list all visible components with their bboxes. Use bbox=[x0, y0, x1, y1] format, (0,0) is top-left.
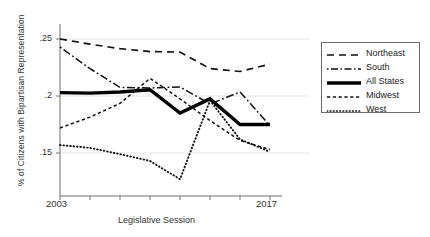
legend-item-all-states[interactable]: All States bbox=[322, 74, 421, 88]
legend-swatch-midwest bbox=[327, 89, 361, 101]
legend-item-northeast[interactable]: Northeast bbox=[322, 46, 421, 60]
legend-swatch-west bbox=[327, 103, 361, 115]
series-line-all-states bbox=[60, 90, 270, 125]
series-line-northeast bbox=[60, 39, 270, 71]
plot-area bbox=[0, 0, 430, 237]
legend-label-northeast: Northeast bbox=[366, 48, 405, 58]
legend-swatch-northeast bbox=[327, 47, 361, 59]
chart-figure: % of Citizens with Bipartisan Representa… bbox=[0, 0, 430, 237]
gridlines bbox=[60, 39, 310, 153]
series-line-south bbox=[60, 47, 270, 126]
legend-label-midwest: Midwest bbox=[366, 90, 399, 100]
legend-item-midwest[interactable]: Midwest bbox=[322, 88, 421, 102]
legend-box: Northeast South All States Midwest West bbox=[321, 42, 420, 113]
legend-label-south: South bbox=[366, 62, 390, 72]
legend-label-west: West bbox=[366, 104, 386, 114]
legend-swatch-all-states bbox=[327, 75, 361, 87]
legend-label-all-states: All States bbox=[366, 76, 404, 86]
legend-item-south[interactable]: South bbox=[322, 60, 421, 74]
axis-lines bbox=[56, 24, 282, 200]
legend-item-west[interactable]: West bbox=[322, 102, 421, 116]
series-lines bbox=[60, 39, 270, 179]
legend-swatch-south bbox=[327, 61, 361, 73]
